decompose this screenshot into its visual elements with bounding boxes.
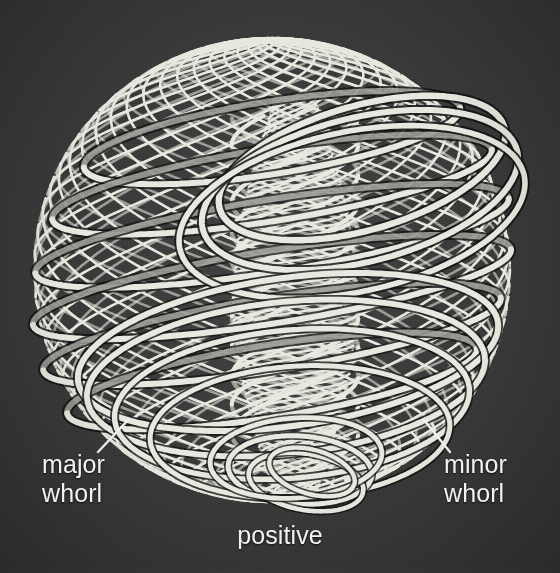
label-major-whorl: major whorl — [42, 450, 105, 508]
major-whorl-leader — [98, 420, 128, 452]
label-positive: positive — [0, 521, 560, 550]
minor-whorl-leader — [424, 420, 450, 452]
figure-canvas: major whorl minor whorl positive — [0, 0, 560, 573]
label-minor-whorl: minor whorl — [444, 450, 507, 508]
